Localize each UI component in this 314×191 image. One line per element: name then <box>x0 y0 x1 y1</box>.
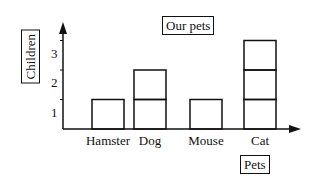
x-axis-arrow-icon <box>289 125 301 133</box>
y-tick-label: 3 <box>51 47 58 60</box>
bar-segment <box>190 100 222 130</box>
bar-segment <box>244 100 276 130</box>
x-category-label: Mouse <box>176 134 236 147</box>
y-tick-label: 1 <box>51 106 58 119</box>
bar-segment <box>92 100 124 130</box>
bar-segment <box>244 41 276 71</box>
y-axis-arrow-icon <box>59 22 67 34</box>
bar-segment <box>134 100 166 130</box>
y-tick-label: 2 <box>51 76 58 89</box>
x-category-label: Cat <box>230 134 290 147</box>
x-category-label: Dog <box>120 134 180 147</box>
x-axis-label: Pets <box>240 155 270 174</box>
y-axis-label: Children <box>21 30 40 84</box>
bar-segment <box>244 70 276 100</box>
bar-segment <box>134 70 166 100</box>
chart-title: Our pets <box>162 16 214 35</box>
